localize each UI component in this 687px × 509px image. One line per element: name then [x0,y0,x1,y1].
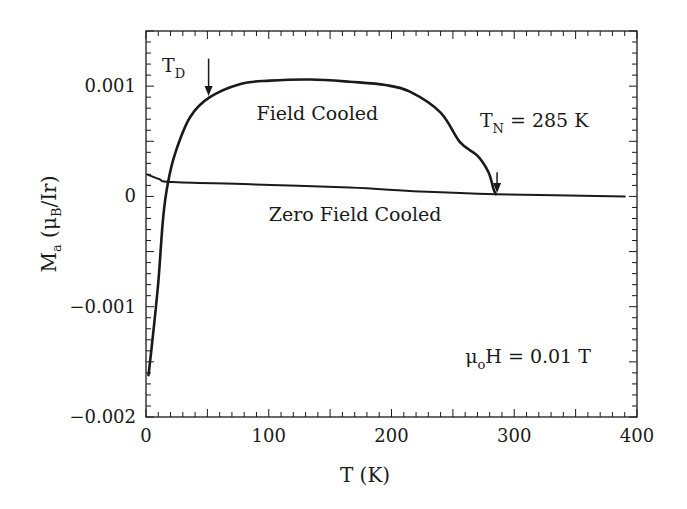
x-axis-label: T (K) [340,463,390,487]
x-tick-label: 0 [140,425,151,446]
zero-field-cooled-curve [147,174,625,196]
y-tick-label: 0 [125,185,136,206]
field-label: μoH = 0.01 T [465,345,591,372]
x-tick-label: 100 [252,425,286,446]
zero-field-cooled-label: Zero Field Cooled [269,203,442,225]
field-cooled-label: Field Cooled [256,102,378,124]
x-tick-label: 300 [497,425,531,446]
y-tick-label: −0.001 [69,296,136,317]
y-tick-label: −0.002 [69,406,136,427]
annotation-layer: TDField CooledTN = 285 KZero Field Coole… [162,54,591,372]
svg-text:Ma (μB/Ir): Ma (μB/Ir) [37,176,64,273]
y-axis-label: Ma (μB/Ir) [37,176,64,273]
x-tick-label: 200 [374,425,408,446]
x-tick-label: 400 [620,425,654,446]
arrowhead-icon [205,86,213,96]
tn-label: TN = 285 K [480,109,589,136]
magnetization-chart: 0100200300400−0.002−0.00100.001 TDField … [0,0,687,509]
y-tick-label: 0.001 [84,75,136,96]
td-label: TD [162,54,185,81]
